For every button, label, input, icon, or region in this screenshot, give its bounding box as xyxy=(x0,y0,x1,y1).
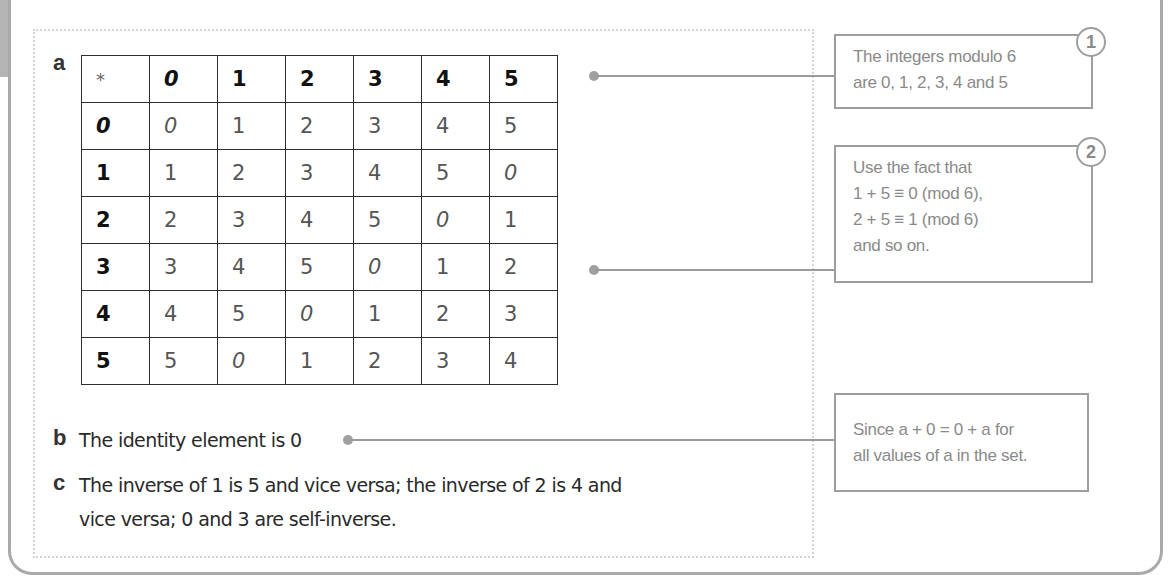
table-cell: 5 xyxy=(422,150,490,197)
row-header: 2 xyxy=(82,197,150,244)
note-1-line-2: are 0, 1, 2, 3, 4 and 5 xyxy=(853,70,1091,96)
inverse-statement-line1: The inverse of 1 is 5 and vice versa; th… xyxy=(79,468,622,502)
table-cell: 3 xyxy=(354,103,422,150)
identity-statement: The identity element is 0 xyxy=(79,423,302,457)
table-cell: 1 xyxy=(150,150,218,197)
table-cell: 3 xyxy=(150,244,218,291)
table-row: 0 0 1 2 3 4 5 xyxy=(82,103,558,150)
table-row: 4 4 5 0 1 2 3 xyxy=(82,291,558,338)
table-header-row: * 0 1 2 3 4 5 xyxy=(82,56,558,103)
connector-line-2 xyxy=(594,269,834,271)
table-cell: 5 xyxy=(150,338,218,385)
table-cell: 3 xyxy=(422,338,490,385)
table-cell: 2 xyxy=(354,338,422,385)
part-c-label: c xyxy=(53,470,65,496)
table-row: 3 3 4 5 0 1 2 xyxy=(82,244,558,291)
note-box-3: Since a + 0 = 0 + a for all values of a … xyxy=(834,393,1089,492)
row-header: 4 xyxy=(82,291,150,338)
connector-line-1 xyxy=(594,75,834,77)
table-cell: 3 xyxy=(218,197,286,244)
note-box-2: Use the fact that 1 + 5 ≡ 0 (mod 6), 2 +… xyxy=(834,145,1093,283)
table-cell: 4 xyxy=(354,150,422,197)
table-cell: 2 xyxy=(490,244,558,291)
note-2-line-1: Use the fact that xyxy=(853,155,1091,181)
table-row: 5 5 0 1 2 3 4 xyxy=(82,338,558,385)
table-cell: 1 xyxy=(422,244,490,291)
column-header: 0 xyxy=(150,56,218,103)
inverse-statement-line2: vice versa; 0 and 3 are self-inverse. xyxy=(79,502,396,536)
table-cell: 2 xyxy=(218,150,286,197)
table-row: 1 1 2 3 4 5 0 xyxy=(82,150,558,197)
table-cell: 1 xyxy=(286,338,354,385)
cayley-table: * 0 1 2 3 4 5 0 0 1 2 3 4 5 1 1 2 3 4 5 … xyxy=(81,55,558,385)
table-cell: 4 xyxy=(422,103,490,150)
connector-line-3 xyxy=(348,439,834,441)
table-cell: 0 xyxy=(490,150,558,197)
table-cell: 2 xyxy=(422,291,490,338)
table-cell: 4 xyxy=(150,291,218,338)
table-cell: 1 xyxy=(218,103,286,150)
column-header: 5 xyxy=(490,56,558,103)
column-header: 3 xyxy=(354,56,422,103)
row-header: 3 xyxy=(82,244,150,291)
table-row: 2 2 3 4 5 0 1 xyxy=(82,197,558,244)
note-number-1-badge: 1 xyxy=(1076,27,1106,57)
table-cell: 0 xyxy=(218,338,286,385)
column-header: 1 xyxy=(218,56,286,103)
note-2-line-3: 2 + 5 ≡ 1 (mod 6) xyxy=(853,207,1091,233)
table-cell: 0 xyxy=(150,103,218,150)
table-cell: 3 xyxy=(286,150,354,197)
table-cell: 4 xyxy=(490,338,558,385)
table-cell: 5 xyxy=(286,244,354,291)
column-header: 4 xyxy=(422,56,490,103)
table-cell: 4 xyxy=(286,197,354,244)
table-cell: 5 xyxy=(354,197,422,244)
note-2-line-2: 1 + 5 ≡ 0 (mod 6), xyxy=(853,181,1091,207)
operator-cell: * xyxy=(82,56,150,103)
row-header: 1 xyxy=(82,150,150,197)
table-cell: 0 xyxy=(354,244,422,291)
part-b-label: b xyxy=(53,425,66,451)
table-cell: 3 xyxy=(490,291,558,338)
row-header: 0 xyxy=(82,103,150,150)
table-cell: 2 xyxy=(150,197,218,244)
note-box-1: The integers modulo 6 are 0, 1, 2, 3, 4 … xyxy=(834,34,1093,109)
table-cell: 0 xyxy=(286,291,354,338)
row-header: 5 xyxy=(82,338,150,385)
note-3-line-1: Since a + 0 = 0 + a for xyxy=(853,417,1087,443)
table-cell: 2 xyxy=(286,103,354,150)
note-number-2-badge: 2 xyxy=(1076,137,1106,167)
table-cell: 1 xyxy=(490,197,558,244)
note-2-line-4: and so on. xyxy=(853,233,1091,259)
column-header: 2 xyxy=(286,56,354,103)
note-3-line-2: all values of a in the set. xyxy=(853,443,1087,469)
table-cell: 4 xyxy=(218,244,286,291)
part-a-label: a xyxy=(53,50,65,76)
table-cell: 5 xyxy=(218,291,286,338)
table-cell: 0 xyxy=(422,197,490,244)
table-cell: 5 xyxy=(490,103,558,150)
table-cell: 1 xyxy=(354,291,422,338)
note-1-line-1: The integers modulo 6 xyxy=(853,44,1091,70)
